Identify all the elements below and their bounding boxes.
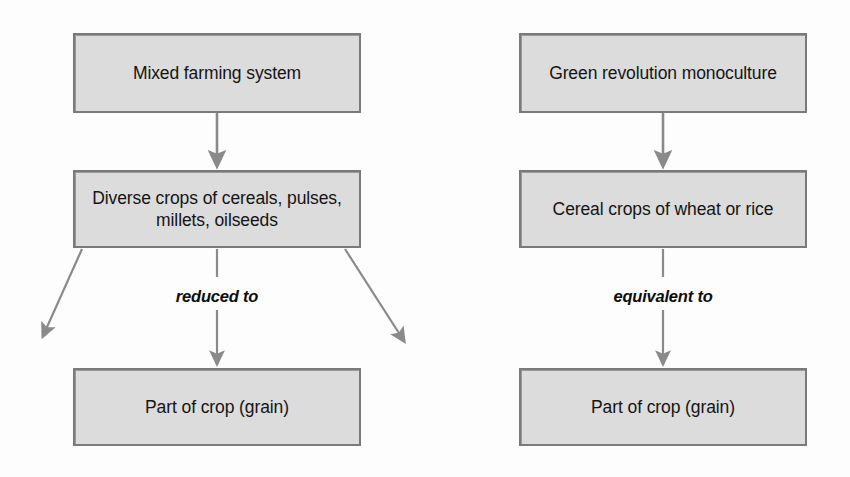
diagram-canvas: Mixed farming system Diverse crops of ce… [0, 0, 850, 477]
node-diverse-crops: Diverse crops of cereals, pulses, millet… [73, 170, 361, 248]
node-label: Diverse crops of cereals, pulses, millet… [84, 187, 350, 232]
node-label: Mixed farming system [125, 62, 309, 84]
node-label: Part of crop (grain) [137, 396, 297, 418]
node-part-of-crop-left: Part of crop (grain) [73, 368, 361, 446]
node-label: Green revolution monoculture [541, 62, 785, 84]
node-green-revolution-monoculture: Green revolution monoculture [519, 33, 807, 113]
node-part-of-crop-right: Part of crop (grain) [519, 368, 807, 446]
arrow-diverse-to-left [43, 249, 82, 336]
node-label: Part of crop (grain) [583, 396, 743, 418]
arrow-diverse-to-right [345, 249, 404, 341]
node-mixed-farming-system: Mixed farming system [73, 33, 361, 113]
node-cereal-crops: Cereal crops of wheat or rice [519, 170, 807, 248]
edge-label-equivalent-to: equivalent to [613, 287, 712, 306]
node-label: Cereal crops of wheat or rice [545, 198, 782, 220]
edge-label-reduced-to: reduced to [176, 287, 258, 306]
